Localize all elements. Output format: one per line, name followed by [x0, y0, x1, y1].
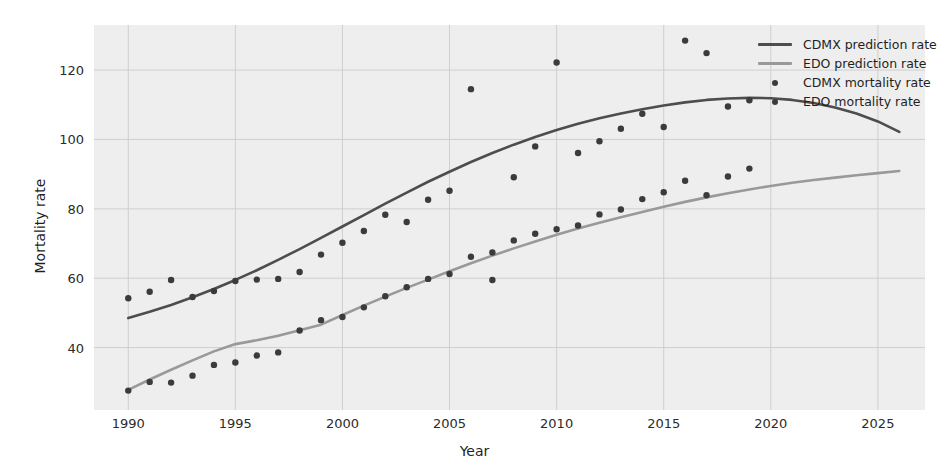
data-point: [189, 294, 195, 300]
legend-dot-swatch: [756, 95, 794, 109]
data-point: [596, 138, 602, 144]
data-point: [618, 206, 624, 212]
data-point: [468, 253, 474, 259]
y-tick-label: 40: [38, 340, 84, 355]
legend-label: CDMX prediction rate: [803, 37, 937, 52]
data-point: [254, 276, 260, 282]
x-axis-title: Year: [0, 443, 949, 459]
data-point: [661, 124, 667, 130]
data-point: [146, 379, 152, 385]
data-point: [254, 352, 260, 358]
x-tick-label: 1995: [203, 416, 267, 431]
legend-label: EDO prediction rate: [803, 56, 926, 71]
data-point: [575, 222, 581, 228]
data-point: [553, 226, 559, 232]
data-point: [168, 379, 174, 385]
data-point: [596, 211, 602, 217]
data-point: [532, 231, 538, 237]
legend-label: EDO mortality rate: [803, 94, 920, 109]
legend-dot-swatch: [756, 76, 794, 90]
x-tick-label: 1990: [96, 416, 160, 431]
data-point: [511, 237, 517, 243]
data-point: [553, 59, 559, 65]
data-point: [232, 278, 238, 284]
data-point: [125, 387, 131, 393]
data-point: [189, 372, 195, 378]
line-swatch-icon: [758, 43, 792, 46]
data-point: [361, 304, 367, 310]
chart-legend: CDMX prediction rateEDO prediction rateC…: [752, 33, 941, 113]
data-point: [382, 212, 388, 218]
data-point: [404, 219, 410, 225]
x-tick-label: 2020: [739, 416, 803, 431]
x-tick-label: 2025: [846, 416, 910, 431]
data-point: [725, 103, 731, 109]
data-point: [168, 277, 174, 283]
data-point: [146, 289, 152, 295]
data-point: [446, 188, 452, 194]
legend-line-swatch: [756, 38, 794, 52]
data-point: [318, 317, 324, 323]
legend-item[interactable]: EDO prediction rate: [756, 54, 937, 73]
data-point: [682, 178, 688, 184]
legend-item[interactable]: EDO mortality rate: [756, 92, 937, 111]
data-point: [425, 276, 431, 282]
data-point: [404, 284, 410, 290]
data-point: [232, 359, 238, 365]
data-point: [682, 37, 688, 43]
series-line: [128, 98, 899, 318]
data-point: [661, 189, 667, 195]
x-tick-label: 2005: [418, 416, 482, 431]
data-point: [639, 196, 645, 202]
data-point: [339, 240, 345, 246]
data-point: [446, 271, 452, 277]
data-point: [746, 165, 752, 171]
legend-item[interactable]: CDMX mortality rate: [756, 73, 937, 92]
series-line: [128, 171, 899, 390]
data-point: [489, 249, 495, 255]
data-point: [211, 288, 217, 294]
data-point: [468, 86, 474, 92]
legend-line-swatch: [756, 57, 794, 71]
data-point: [125, 295, 131, 301]
data-point: [425, 197, 431, 203]
data-point: [532, 143, 538, 149]
dot-swatch-icon: [772, 99, 778, 105]
data-point: [296, 269, 302, 275]
data-point: [639, 111, 645, 117]
data-point: [318, 251, 324, 257]
data-point: [275, 276, 281, 282]
dot-swatch-icon: [772, 80, 778, 86]
data-point: [339, 314, 345, 320]
data-point: [211, 362, 217, 368]
line-swatch-icon: [758, 62, 792, 65]
y-tick-label: 120: [38, 63, 84, 78]
x-tick-label: 2000: [310, 416, 374, 431]
data-point: [618, 126, 624, 132]
data-point: [703, 192, 709, 198]
data-point: [725, 173, 731, 179]
data-point: [489, 277, 495, 283]
x-tick-label: 2010: [525, 416, 589, 431]
legend-label: CDMX mortality rate: [803, 75, 931, 90]
data-point: [275, 349, 281, 355]
chart-figure: 406080100120 199019952000200520102015202…: [0, 0, 949, 473]
y-tick-label: 100: [38, 132, 84, 147]
data-point: [575, 150, 581, 156]
data-point: [296, 327, 302, 333]
data-point: [703, 50, 709, 56]
data-point: [511, 174, 517, 180]
x-tick-label: 2015: [632, 416, 696, 431]
data-point: [361, 228, 367, 234]
data-point: [382, 293, 388, 299]
y-axis-title: Mortality rate: [32, 146, 48, 306]
legend-item[interactable]: CDMX prediction rate: [756, 35, 937, 54]
